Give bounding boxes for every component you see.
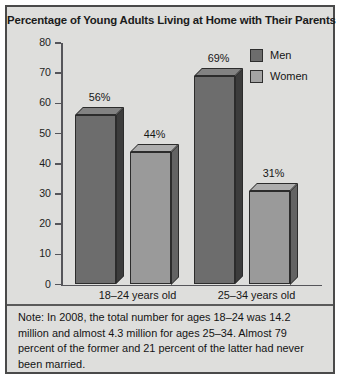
y-tick-60 — [55, 103, 61, 105]
legend-label-women: Women — [270, 70, 308, 82]
legend-swatch-men-icon — [250, 49, 263, 62]
bar-top-face — [249, 183, 298, 191]
bar-front-face — [194, 76, 235, 284]
note-divider — [7, 304, 333, 306]
y-tick-70 — [55, 72, 61, 74]
legend-item-men[interactable]: Men — [250, 48, 308, 62]
chart-figure: Percentage of Young Adults Living at Hom… — [5, 5, 335, 374]
bar-men-1[interactable] — [194, 76, 235, 284]
category-label-1: 25–34 years old — [187, 289, 327, 301]
bar-value-label: 56% — [70, 91, 130, 103]
y-axis-line — [61, 43, 63, 286]
bar-women-1[interactable] — [249, 191, 290, 285]
y-tick-label-50: 50 — [11, 127, 51, 139]
legend-swatch-women-icon — [250, 70, 263, 83]
bar-side-face — [171, 144, 179, 285]
y-tick-0 — [55, 284, 61, 286]
y-tick-label-60: 60 — [11, 96, 51, 108]
y-tick-label-80: 80 — [11, 36, 51, 48]
bar-side-face — [235, 68, 243, 284]
y-tick-50 — [55, 133, 61, 135]
bar-women-0[interactable] — [130, 152, 171, 285]
chart-legend: Men Women — [250, 48, 308, 90]
x-axis-line — [61, 285, 322, 287]
y-tick-20 — [55, 223, 61, 225]
legend-label-men: Men — [270, 49, 291, 61]
bar-value-label: 69% — [189, 52, 249, 64]
bar-top-face — [130, 144, 179, 152]
y-tick-label-0: 0 — [11, 278, 51, 290]
y-tick-label-70: 70 — [11, 66, 51, 78]
y-tick-10 — [55, 254, 61, 256]
chart-note: Note: In 2008, the total number for ages… — [18, 310, 318, 372]
y-tick-40 — [55, 163, 61, 165]
y-tick-label-20: 20 — [11, 217, 51, 229]
bar-front-face — [75, 115, 116, 284]
bar-side-face — [116, 107, 124, 284]
bar-front-face — [130, 152, 171, 285]
bar-men-0[interactable] — [75, 115, 116, 284]
bar-top-face — [194, 68, 243, 76]
y-tick-30 — [55, 193, 61, 195]
y-tick-label-10: 10 — [11, 247, 51, 259]
y-tick-label-30: 30 — [11, 187, 51, 199]
bar-top-face — [75, 107, 124, 115]
y-tick-label-40: 40 — [11, 157, 51, 169]
bar-side-face — [290, 183, 298, 285]
bar-value-label: 31% — [244, 167, 304, 179]
y-tick-80 — [55, 42, 61, 44]
legend-item-women[interactable]: Women — [250, 69, 308, 83]
bar-value-label: 44% — [125, 128, 185, 140]
bar-front-face — [249, 191, 290, 285]
